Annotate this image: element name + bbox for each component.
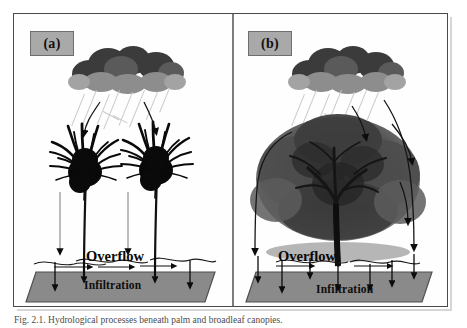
panel-a-infiltration-label: Infiltration — [84, 279, 141, 291]
panel-a: (a) — [14, 14, 232, 306]
panel-a-overflow-label: Overflow — [86, 248, 144, 265]
throughfall-arrow-a2 — [144, 102, 156, 132]
panel-b: (b) — [234, 14, 447, 306]
panel-b-overflow-label: Overflow — [278, 248, 336, 265]
tree-trunk — [336, 204, 338, 266]
figure-container: (a) — [0, 0, 467, 328]
panel-b-vector-layer — [234, 14, 447, 306]
figure-caption: Fig. 2.1. Hydrological processes beneath… — [14, 315, 444, 328]
panel-b-infiltration-label: Infiltration — [316, 283, 373, 295]
